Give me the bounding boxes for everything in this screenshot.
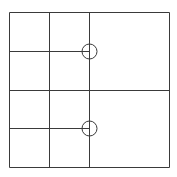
partition-lines <box>10 13 170 168</box>
grid-diagram <box>0 0 177 177</box>
diagram-canvas <box>0 0 177 177</box>
